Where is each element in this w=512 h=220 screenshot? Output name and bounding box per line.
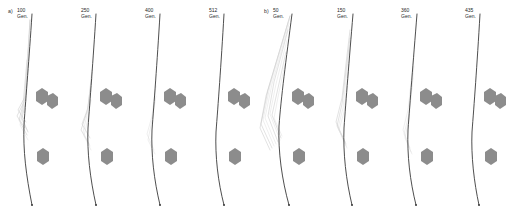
panel-a3: 400 Gen. <box>128 0 192 220</box>
panel-b2-unit: Gen. <box>337 13 348 19</box>
panel-a3-plot <box>128 0 192 220</box>
blob-upper-right <box>367 93 378 109</box>
panel-a3-caption: 400 Gen. <box>145 7 156 19</box>
panel-b4-caption: 435 Gen. <box>465 7 476 19</box>
blob-upper-left <box>228 88 240 105</box>
evolution-figure: a) b) 100 Gen. <box>0 0 512 220</box>
blob-upper-right <box>175 93 186 109</box>
trunk-tip-dot <box>478 204 480 206</box>
panel-b2-caption: 150 Gen. <box>337 7 348 19</box>
panel-a4: 512 Gen. <box>192 0 256 220</box>
blob-upper-left <box>100 88 112 105</box>
blob-lower <box>421 148 433 165</box>
trunk-tip-dot <box>288 204 290 206</box>
panel-b1-plot <box>256 0 320 220</box>
blob-upper-right <box>47 93 58 109</box>
trunk-tip-dot <box>95 204 97 206</box>
panel-a2-plot <box>64 0 128 220</box>
blob-upper-right <box>111 93 122 109</box>
panel-b1: 50 Gen. <box>256 0 320 220</box>
panel-b2: 150 Gen. <box>320 0 384 220</box>
blob-lower <box>101 148 113 165</box>
blob-lower <box>37 148 49 165</box>
panel-a4-caption: 512 Gen. <box>209 7 220 19</box>
panel-b4-plot <box>448 0 512 220</box>
blob-upper-left <box>292 88 304 105</box>
blob-upper-left <box>484 88 496 105</box>
blob-upper-left <box>164 88 176 105</box>
trunk-tip-dot <box>415 204 417 206</box>
panel-b4-unit: Gen. <box>465 13 476 19</box>
blob-lower <box>165 148 177 165</box>
blob-upper-left <box>420 88 432 105</box>
panel-b3-caption: 360 Gen. <box>401 7 412 19</box>
panel-b3-plot <box>384 0 448 220</box>
blob-upper-right <box>303 93 314 109</box>
blob-upper-left <box>36 88 48 105</box>
panel-b3-unit: Gen. <box>401 13 412 19</box>
panel-b2-plot <box>320 0 384 220</box>
trunk-tip-dot <box>159 204 161 206</box>
panel-a4-plot <box>192 0 256 220</box>
blob-upper-left <box>356 88 368 105</box>
blob-lower <box>293 148 305 165</box>
blob-lower <box>485 148 497 165</box>
panel-a1-caption: 100 Gen. <box>17 7 28 19</box>
panel-b3: 360 Gen. <box>384 0 448 220</box>
panel-b1-unit: Gen. <box>273 13 284 19</box>
panel-a1: 100 Gen. <box>0 0 64 220</box>
panel-a2-caption: 250 Gen. <box>81 7 92 19</box>
trunk-tip-dot <box>31 204 33 206</box>
panel-a4-unit: Gen. <box>209 13 220 19</box>
blob-upper-right <box>431 93 442 109</box>
panel-b4: 435 Gen. <box>448 0 512 220</box>
blob-upper-right <box>239 93 250 109</box>
trunk-tip-dot <box>223 204 225 206</box>
blob-lower <box>357 148 369 165</box>
trunk-tip-dot <box>351 204 353 206</box>
panel-b1-caption: 50 Gen. <box>273 7 284 19</box>
panel-a1-plot <box>0 0 64 220</box>
blob-upper-right <box>495 93 506 109</box>
panel-a3-unit: Gen. <box>145 13 156 19</box>
blob-lower <box>229 148 241 165</box>
panel-a2: 250 Gen. <box>64 0 128 220</box>
panel-a2-unit: Gen. <box>81 13 92 19</box>
panel-a1-unit: Gen. <box>17 13 28 19</box>
